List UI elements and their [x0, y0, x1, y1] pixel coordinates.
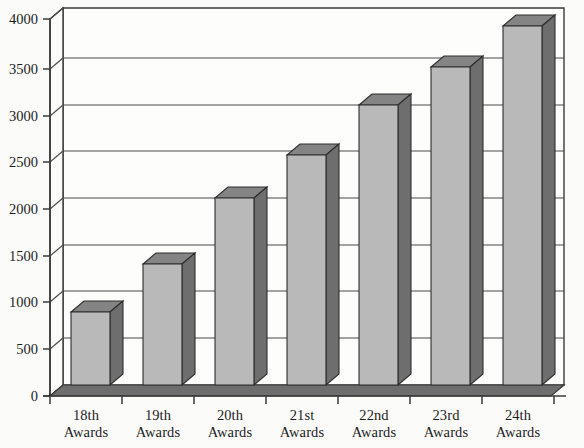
- bar-side-face: [110, 301, 123, 385]
- bar-chart-3d: [0, 0, 584, 448]
- y-tick-label-3000: 3000: [0, 109, 38, 124]
- y-tick-label-0: 0: [0, 389, 38, 404]
- bar-24th-awards[interactable]: [503, 15, 555, 385]
- chart-container: 4000 3500 3000 2500 2000 1500 1000 500 0…: [0, 0, 584, 448]
- bar-side-face: [398, 94, 411, 385]
- bar-front-face: [71, 312, 110, 385]
- y-tick-label-4000: 4000: [0, 12, 38, 27]
- bar-23rd-awards[interactable]: [431, 56, 483, 385]
- bar-18th-awards[interactable]: [71, 301, 123, 385]
- bar-side-face: [542, 15, 555, 385]
- bar-20th-awards[interactable]: [215, 187, 267, 385]
- bar-side-face: [470, 56, 483, 385]
- y-tick-label-1000: 1000: [0, 295, 38, 310]
- y-axis-ticks: [43, 19, 50, 396]
- bar-front-face: [503, 26, 542, 385]
- bar-front-face: [287, 155, 326, 385]
- plot-floor: [50, 385, 564, 396]
- x-axis-ticks: [50, 396, 554, 404]
- x-tick-label-23rd-awards: 23rd Awards: [410, 407, 482, 441]
- x-tick-label-19th-awards: 19th Awards: [122, 407, 194, 441]
- bar-side-face: [182, 253, 195, 385]
- bar-22nd-awards[interactable]: [359, 94, 411, 385]
- bar-front-face: [143, 264, 182, 385]
- bar-side-face: [254, 187, 267, 385]
- bar-front-face: [431, 67, 470, 385]
- y-tick-label-2500: 2500: [0, 155, 38, 170]
- x-tick-label-24th-awards: 24th Awards: [482, 407, 554, 441]
- x-tick-label-20th-awards: 20th Awards: [194, 407, 266, 441]
- y-tick-label-500: 500: [0, 342, 38, 357]
- x-tick-label-21st-awards: 21st Awards: [266, 407, 338, 441]
- bar-front-face: [215, 198, 254, 385]
- x-tick-label-22nd-awards: 22nd Awards: [338, 407, 410, 441]
- plot-left-wall: [50, 8, 63, 396]
- y-tick-label-1500: 1500: [0, 249, 38, 264]
- y-tick-label-3500: 3500: [0, 62, 38, 77]
- bar-front-face: [359, 105, 398, 385]
- bar-side-face: [326, 144, 339, 385]
- bar-21st-awards[interactable]: [287, 144, 339, 385]
- x-tick-label-18th-awards: 18th Awards: [50, 407, 122, 441]
- bar-19th-awards[interactable]: [143, 253, 195, 385]
- y-tick-label-2000: 2000: [0, 202, 38, 217]
